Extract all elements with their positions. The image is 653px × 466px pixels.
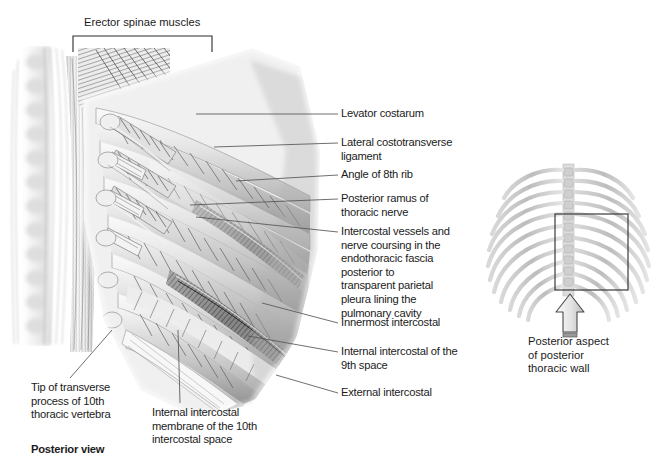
inset-vertebral-column (563, 164, 574, 296)
erector-spinae-bracket-label: Erector spinae muscles (84, 16, 200, 28)
label-external-intercostal: External intercostal (341, 386, 432, 400)
figure-page: Erector spinae muscles Levator costarum … (0, 0, 653, 466)
view-direction-arrow (556, 294, 584, 337)
label-levator-costarum: Levator costarum (341, 107, 424, 121)
label-lateral-costotransverse-ligament: Lateral costotransverse ligament (341, 136, 452, 163)
inset-caption: Posterior aspect of posterior thoracic w… (528, 335, 609, 376)
label-tip-of-transverse-process: Tip of transverse process of 10th thorac… (31, 381, 111, 422)
label-internal-intercostal-membrane: Internal intercostal membrane of the 10t… (152, 406, 257, 447)
label-posterior-ramus-of-thoracic-nerve: Posterior ramus of thoracic nerve (341, 192, 428, 219)
label-internal-intercostal-9th-space: Internal intercostal of the 9th space (341, 345, 457, 372)
inset-ribs-left (488, 170, 562, 320)
label-intercostal-vessels-and-nerve: Intercostal vessels and nerve coursing i… (341, 225, 450, 320)
label-angle-of-8th-rib: Angle of 8th rib (341, 168, 413, 182)
label-innermost-intercostal: Innermost intercostal (341, 316, 440, 330)
view-caption: Posterior view (31, 443, 104, 457)
inset-ribs-right (575, 170, 649, 320)
